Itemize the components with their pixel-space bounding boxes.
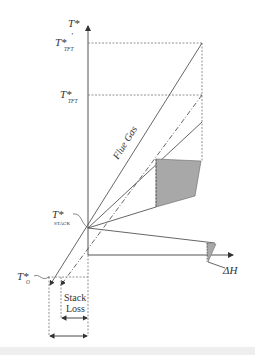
t-stack-leader	[73, 214, 88, 228]
label-t-tft: T* TFT	[60, 88, 78, 104]
flue-gas-label: Flue Gas	[110, 124, 139, 162]
stack-loss-label-line2: Loss	[66, 303, 85, 314]
svg-text:TFT: TFT	[68, 98, 78, 104]
svg-text:O: O	[26, 279, 30, 285]
label-t-stack: T* STACK	[52, 208, 70, 226]
label-t-tft-prime: T* ' TFT	[55, 32, 74, 52]
svg-text:STACK: STACK	[54, 221, 70, 226]
shaded-pocket-upper	[156, 159, 201, 207]
x-axis-label: ΔH	[222, 264, 238, 276]
label-t-o: T* O	[17, 270, 30, 285]
process-line-to-pocket	[88, 207, 156, 228]
y-axis-label: T*	[68, 17, 80, 29]
process-line-lower	[88, 228, 215, 243]
svg-text:T*: T*	[52, 208, 64, 220]
shaded-pocket-lower	[207, 243, 216, 262]
stack-loss-label-line1: Stack	[64, 292, 86, 303]
bottom-band	[0, 347, 255, 355]
grand-composite-curve-diagram: T* ΔH T* ' TFT T* TFT T* STACK T* O	[0, 0, 255, 355]
svg-text:TFT: TFT	[64, 46, 74, 52]
t-o-leader	[34, 275, 49, 278]
svg-text:': '	[71, 32, 73, 41]
